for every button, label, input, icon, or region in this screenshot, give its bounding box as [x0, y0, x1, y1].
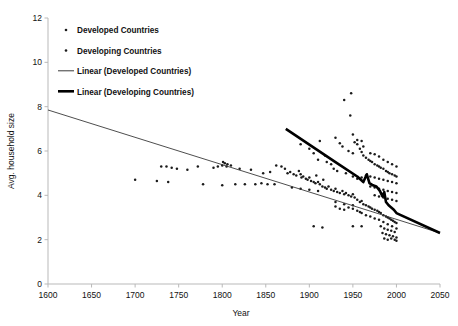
x-tick-label: 1700: [126, 290, 145, 300]
data-point: [295, 174, 298, 177]
data-point: [386, 190, 389, 193]
data-point: [336, 191, 339, 194]
y-tick-label: 2: [37, 235, 42, 245]
data-point: [339, 142, 342, 145]
data-point: [382, 167, 385, 170]
data-point: [395, 192, 398, 195]
data-point: [262, 172, 265, 175]
data-point: [284, 167, 287, 170]
data-point: [373, 217, 376, 220]
data-point: [326, 187, 329, 190]
data-point: [341, 145, 344, 148]
x-tick-label: 1900: [300, 290, 319, 300]
data-point: [391, 191, 394, 194]
data-point: [391, 173, 394, 176]
data-point: [186, 169, 189, 172]
data-point: [156, 180, 159, 183]
data-point: [373, 176, 376, 179]
x-tick-label: 1800: [213, 290, 232, 300]
data-point: [345, 192, 348, 195]
data-point: [382, 159, 385, 162]
data-point: [386, 238, 389, 241]
y-tick-label: 4: [37, 190, 42, 200]
x-tick-label: 2050: [431, 290, 450, 300]
data-point: [224, 162, 227, 165]
data-point: [395, 182, 398, 185]
data-point: [334, 136, 337, 139]
data-point: [254, 183, 257, 186]
data-point: [167, 181, 170, 184]
data-point: [393, 231, 396, 234]
data-point: [334, 187, 337, 190]
data-point: [347, 150, 350, 153]
data-point: [310, 180, 313, 183]
data-point: [343, 99, 346, 102]
x-axis-title: Year: [232, 308, 249, 318]
data-point: [347, 206, 350, 209]
data-point: [302, 175, 305, 178]
data-point: [359, 211, 362, 214]
data-point: [306, 179, 309, 182]
data-point: [322, 179, 325, 182]
data-point: [250, 169, 253, 172]
data-point: [266, 183, 269, 186]
data-point: [352, 152, 355, 155]
household-size-scatter-chart: 024681012 160016501700175018001850190019…: [0, 0, 458, 326]
data-point: [273, 183, 276, 186]
data-point: [221, 184, 224, 187]
chart-container: 024681012 160016501700175018001850190019…: [0, 0, 458, 326]
data-point: [217, 165, 220, 168]
data-point: [312, 152, 315, 155]
data-point: [360, 225, 363, 228]
x-tick-label: 1850: [256, 290, 275, 300]
data-point: [356, 139, 359, 142]
data-point: [347, 194, 350, 197]
data-point: [286, 172, 289, 175]
data-point: [391, 225, 394, 228]
legend-dot-marker: [65, 29, 68, 32]
data-point: [350, 195, 353, 198]
data-point: [381, 232, 384, 235]
y-tick-label: 0: [37, 279, 42, 289]
data-point: [386, 223, 389, 226]
data-point: [360, 151, 363, 154]
data-point: [352, 133, 355, 136]
data-point: [395, 240, 398, 243]
data-point: [373, 194, 376, 197]
data-point: [319, 140, 322, 143]
legend-label: Linear (Developing Countries): [77, 88, 194, 97]
data-point: [353, 196, 356, 199]
data-point: [362, 145, 365, 148]
data-point: [383, 237, 386, 240]
data-point: [334, 205, 337, 208]
data-point: [378, 177, 381, 180]
data-point: [356, 143, 359, 146]
data-point: [391, 181, 394, 184]
data-point: [380, 225, 383, 228]
data-point: [134, 179, 137, 182]
x-tick-label: 1750: [169, 290, 188, 300]
data-point: [395, 200, 398, 203]
data-point: [391, 163, 394, 166]
data-point: [378, 195, 381, 198]
data-point: [165, 165, 168, 168]
data-point: [334, 201, 337, 204]
data-point: [388, 172, 391, 175]
data-point: [339, 207, 342, 210]
data-point: [362, 203, 365, 206]
data-point: [371, 207, 374, 210]
data-point: [360, 140, 363, 143]
data-point: [369, 175, 372, 178]
data-point: [332, 190, 335, 193]
data-point: [202, 183, 205, 186]
data-point: [392, 235, 395, 238]
data-point: [312, 225, 315, 228]
data-point: [176, 167, 179, 170]
data-point: [317, 190, 320, 193]
data-point: [160, 165, 163, 168]
legend-label: Linear (Developed Countries): [77, 67, 191, 76]
data-point: [383, 227, 386, 230]
data-point: [352, 193, 355, 196]
data-point: [332, 167, 335, 170]
data-point: [212, 166, 215, 169]
